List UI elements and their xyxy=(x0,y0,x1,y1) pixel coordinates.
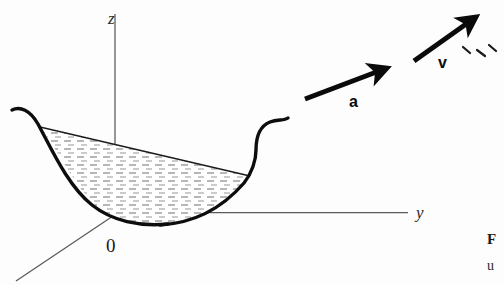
vectors-group xyxy=(305,17,476,99)
stray-dash-marks xyxy=(463,45,496,56)
z-axis-label: z xyxy=(107,9,115,28)
origin-label: 0 xyxy=(106,235,116,256)
acceleration-vector xyxy=(305,68,387,99)
caption-second-line-fragment: u xyxy=(487,258,494,273)
velocity-vector-label: v xyxy=(438,54,447,71)
x-axis-line xyxy=(16,214,116,281)
y-axis-label: y xyxy=(414,203,424,222)
vessel-diagram-svg: z y 0 a v F u xyxy=(0,0,504,285)
caption-bold-fragment: F xyxy=(487,231,496,247)
figure-root: z y 0 a v F u xyxy=(0,0,504,285)
acceleration-vector-label: a xyxy=(349,93,358,110)
